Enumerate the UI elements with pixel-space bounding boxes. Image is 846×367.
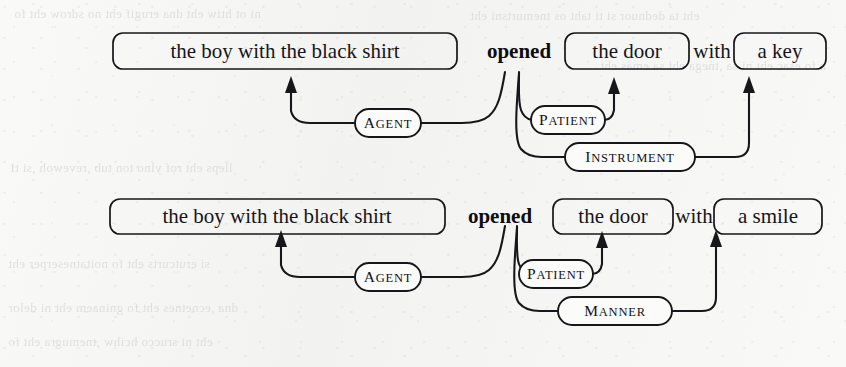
svg-text:AGENT: AGENT [364,268,413,285]
svg-text:PATIENT: PATIENT [527,265,585,282]
srl-diagram: the boy with the black shirt opened the … [0,0,846,367]
r2-patient-label: ATIENT [536,268,585,282]
r1-oblique-text: a key [758,39,803,63]
r1-prep-text: with [693,39,731,63]
r1-patient-bubble: PATIENT [531,106,605,134]
r1-object-text: the door [592,39,661,63]
r1-patient-arrowhead [608,77,620,94]
r1-instrument-arrowhead [743,76,755,93]
r2-object-text: the door [578,204,647,228]
r2-prep-text: with [675,204,713,228]
svg-text:MANNER: MANNER [584,302,646,319]
row-2: the boy with the black shirt opened the … [110,199,822,325]
r1-instrument-bubble: INSTRUMENT [565,143,695,171]
r1-agent-arrowhead [285,76,297,93]
r1-agent-label: GENT [376,117,413,131]
svg-text:AGENT: AGENT [364,114,413,131]
r2-manner-label: ANNER [599,305,646,319]
r2-subject-text: the boy with the black shirt [162,204,391,228]
r1-patient-label: ATIENT [548,114,597,128]
r2-oblique-text: a smile [738,204,798,228]
svg-text:PATIENT: PATIENT [539,111,597,128]
row-1: the boy with the black shirt opened the … [113,33,826,171]
r1-agent-bubble: AGENT [355,109,421,137]
r2-verb-text: opened [468,204,533,228]
r1-instrument-label: NSTRUMENT [591,151,675,165]
r1-verb-text: opened [487,39,552,63]
svg-text:INSTRUMENT: INSTRUMENT [585,148,675,165]
r2-agent-label: GENT [376,271,413,285]
figure-page: ni ot htiw eht dna erugif eht no sdrow e… [0,0,846,367]
r2-manner-bubble: MANNER [558,297,672,325]
r2-patient-bubble: PATIENT [519,260,593,288]
r2-agent-arrowhead [275,230,287,247]
r2-agent-bubble: AGENT [355,263,421,291]
r1-subject-text: the boy with the black shirt [170,39,399,63]
